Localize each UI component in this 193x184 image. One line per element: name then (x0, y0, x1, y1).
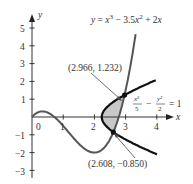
leader-arrow-lower (114, 133, 135, 158)
hyperbola-numerator-1: x² (133, 95, 140, 103)
cubic-curve (32, 34, 136, 153)
y-tick-label-3: 3 (20, 59, 25, 69)
leader-arrow-upper (91, 73, 122, 101)
x-axis-label: x (175, 112, 181, 122)
graph-figure: y x 0 1 2 3 4 5 4 3 2 1 −1 −2 −3 y = x3 … (0, 0, 193, 184)
x-tick-label-1: 1 (60, 122, 65, 132)
x-tick-label-3: 3 (123, 122, 128, 132)
cubic-equation-label: y = x3 − 3.5x2 + 2x (90, 13, 163, 25)
hyperbola-rhs: = 1 (169, 99, 182, 109)
y-tick-label-5: 5 (20, 24, 25, 34)
point-label-lower: (2.608, −0.850) (88, 159, 147, 170)
point-label-upper: (2.966, 1.232) (68, 63, 122, 74)
intersection-point-upper (122, 92, 127, 97)
y-tick-label-neg3: −3 (15, 167, 25, 177)
y-tick-label-neg2: −2 (15, 149, 25, 159)
hyperbola-numerator-2: y² (156, 95, 163, 103)
hyperbola-minus: − (146, 99, 151, 109)
y-tick-label-neg1: −1 (15, 131, 25, 141)
x-tick-label-2: 2 (91, 122, 96, 132)
hyperbola-denominator-1: 5 (135, 105, 139, 113)
y-tick-label-2: 2 (20, 77, 25, 87)
hyperbola-denominator-2: 2 (158, 105, 162, 113)
x-axis-arrow-icon (166, 114, 174, 120)
x-tick-label-4: 4 (154, 122, 159, 132)
y-tick-label-4: 4 (20, 42, 25, 52)
y-tick-label-1: 1 (21, 95, 26, 105)
y-axis-label: y (37, 10, 43, 20)
hyperbola-equation-label: x² 5 − y² 2 = 1 (133, 95, 182, 113)
x-tick-label-0: 0 (36, 122, 41, 132)
y-axis-arrow-icon (29, 14, 35, 22)
